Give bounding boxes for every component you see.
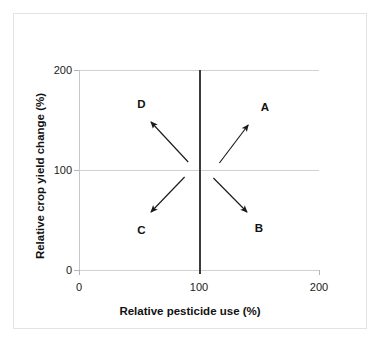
quadrant-label-d: D: [137, 98, 145, 110]
vertical-reference-line: [199, 70, 201, 270]
tick-x-200: [319, 270, 320, 275]
quadrant-label-b: B: [255, 222, 263, 234]
quadrant-label-a: A: [261, 101, 269, 113]
ytick-label-100: 100: [42, 164, 72, 176]
tick-x-100: [199, 267, 201, 274]
ytick-label-0: 0: [42, 264, 72, 276]
plot-area: D A C B: [79, 70, 319, 270]
y-axis-title: Relative crop yield change (%): [34, 76, 46, 276]
quadrant-label-c: C: [137, 224, 145, 236]
xtick-label-200: 200: [310, 281, 328, 293]
tick-x-0: [79, 270, 80, 275]
x-axis-title: Relative pesticide use (%): [0, 305, 380, 317]
xtick-label-0: 0: [76, 281, 82, 293]
ytick-label-200: 200: [42, 64, 72, 76]
tick-y-200: [74, 70, 79, 71]
figure: D A C B 200 100 0 0 100 200 Relative pes…: [0, 0, 380, 348]
y-axis-line: [79, 70, 80, 270]
xtick-label-100: 100: [190, 281, 208, 293]
tick-y-100: [74, 170, 79, 171]
